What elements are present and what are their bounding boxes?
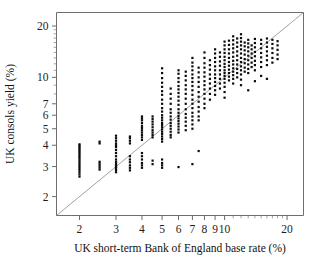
data-point bbox=[161, 126, 163, 128]
data-point bbox=[185, 84, 187, 86]
data-point bbox=[191, 73, 193, 75]
data-point bbox=[203, 80, 205, 82]
data-point bbox=[219, 51, 221, 53]
data-point bbox=[219, 73, 221, 75]
data-point bbox=[203, 62, 205, 64]
data-point bbox=[266, 55, 268, 57]
data-point bbox=[177, 100, 179, 102]
data-point bbox=[223, 69, 225, 71]
data-point bbox=[236, 55, 238, 57]
data-point bbox=[191, 81, 193, 83]
data-point bbox=[161, 94, 163, 96]
data-point bbox=[247, 89, 249, 91]
scatter-plot-figure: 2345678910202345671020UK short-term Bank… bbox=[0, 0, 318, 266]
data-point bbox=[228, 40, 230, 42]
data-point bbox=[151, 134, 153, 136]
data-point bbox=[177, 88, 179, 90]
data-point bbox=[99, 164, 101, 166]
x-tick-label: 8 bbox=[202, 223, 208, 235]
data-point bbox=[266, 59, 268, 61]
data-point bbox=[236, 63, 238, 65]
data-point bbox=[115, 142, 117, 144]
data-point bbox=[232, 51, 234, 53]
x-axis-title: UK short-term Bank of England base rate … bbox=[74, 242, 286, 255]
data-point bbox=[223, 63, 225, 65]
data-point bbox=[191, 57, 193, 59]
data-point bbox=[185, 71, 187, 73]
data-point bbox=[78, 173, 80, 175]
data-point bbox=[185, 117, 187, 119]
data-point bbox=[228, 52, 230, 54]
data-point bbox=[129, 167, 131, 169]
data-point bbox=[254, 46, 256, 48]
data-point bbox=[191, 62, 193, 64]
data-point bbox=[236, 72, 238, 74]
data-point bbox=[247, 39, 249, 41]
data-point bbox=[115, 149, 117, 151]
data-point bbox=[271, 43, 273, 45]
data-point bbox=[232, 63, 234, 65]
data-point bbox=[141, 127, 143, 129]
data-point bbox=[191, 115, 193, 117]
data-point bbox=[223, 86, 225, 88]
data-point bbox=[209, 59, 211, 61]
data-point bbox=[198, 96, 200, 98]
data-point bbox=[247, 68, 249, 70]
data-point bbox=[276, 44, 278, 46]
data-point bbox=[161, 67, 163, 69]
data-point bbox=[203, 51, 205, 53]
data-point bbox=[244, 58, 246, 60]
data-point bbox=[78, 165, 80, 167]
y-tick-label: 7 bbox=[43, 98, 49, 110]
data-point bbox=[232, 71, 234, 73]
data-point bbox=[214, 61, 216, 63]
data-point bbox=[141, 134, 143, 136]
data-point bbox=[177, 108, 179, 110]
data-point bbox=[198, 119, 200, 121]
data-point bbox=[232, 60, 234, 62]
data-point bbox=[198, 71, 200, 73]
data-point bbox=[271, 52, 273, 54]
data-point bbox=[223, 56, 225, 58]
data-point bbox=[191, 119, 193, 121]
data-point bbox=[191, 65, 193, 67]
data-point bbox=[236, 68, 238, 70]
data-point bbox=[161, 164, 163, 166]
data-point bbox=[266, 41, 268, 43]
data-point bbox=[223, 75, 225, 77]
data-point bbox=[191, 89, 193, 91]
data-point bbox=[78, 169, 80, 171]
data-point bbox=[78, 176, 80, 178]
data-point bbox=[151, 118, 153, 120]
data-point bbox=[244, 53, 246, 55]
data-point bbox=[185, 88, 187, 90]
data-point bbox=[191, 99, 193, 101]
data-point bbox=[78, 167, 80, 169]
data-point bbox=[240, 48, 242, 50]
data-point bbox=[223, 97, 225, 99]
data-point bbox=[151, 115, 153, 117]
data-point bbox=[170, 128, 172, 130]
data-point bbox=[198, 86, 200, 88]
data-point bbox=[209, 78, 211, 80]
data-point bbox=[177, 81, 179, 83]
data-point bbox=[170, 115, 172, 117]
data-point bbox=[177, 73, 179, 75]
data-point bbox=[266, 37, 268, 39]
data-point bbox=[214, 69, 216, 71]
y-tick-label: 2 bbox=[43, 191, 49, 203]
data-point bbox=[214, 48, 216, 50]
data-point bbox=[161, 119, 163, 121]
data-point bbox=[247, 63, 249, 65]
data-point bbox=[170, 87, 172, 89]
data-point bbox=[254, 42, 256, 44]
data-point bbox=[161, 82, 163, 84]
data-point bbox=[177, 69, 179, 71]
data-point bbox=[177, 166, 179, 168]
data-point bbox=[228, 69, 230, 71]
data-point bbox=[185, 125, 187, 127]
data-point bbox=[232, 39, 234, 41]
data-point bbox=[185, 108, 187, 110]
plot-canvas: 2345678910202345671020UK short-term Bank… bbox=[0, 0, 318, 266]
data-point bbox=[161, 99, 163, 101]
